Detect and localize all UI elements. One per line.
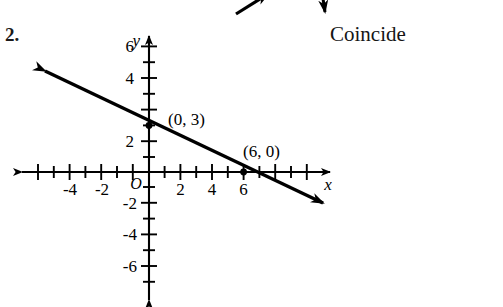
y-axis-label: y xyxy=(130,31,140,50)
x-tick-label-2: 2 xyxy=(176,180,185,199)
coordinate-graph: -4 -2 2 4 6 6 4 2 -2 -4 -6 O y x (0, 3) … xyxy=(0,0,503,307)
x-tick-label--4: -4 xyxy=(63,180,78,199)
y-tick-label--6: -6 xyxy=(123,257,137,276)
point-label-6-0: (6, 0) xyxy=(243,142,280,161)
y-tick-label--2: -2 xyxy=(123,194,137,213)
y-tick-label-2: 2 xyxy=(126,132,135,151)
y-tick-label-4: 4 xyxy=(126,69,135,88)
point-marker-6-0 xyxy=(240,169,247,176)
x-tick-label-6: 6 xyxy=(239,180,248,199)
point-label-0-3: (0, 3) xyxy=(168,110,205,129)
point-marker-0-3 xyxy=(146,122,153,129)
x-axis-label: x xyxy=(323,175,332,194)
figure-canvas: 2. Coincide xyxy=(0,0,503,307)
y-tick-label--4: -4 xyxy=(123,225,138,244)
stray-arrow-left-icon xyxy=(236,0,268,14)
x-tick-label-4: 4 xyxy=(208,180,217,199)
origin-label: O xyxy=(130,175,142,192)
stray-arrow-right-icon xyxy=(322,0,325,12)
x-tick-label--2: -2 xyxy=(95,180,109,199)
